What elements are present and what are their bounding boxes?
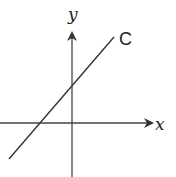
y-axis-label: y — [67, 4, 78, 24]
coordinate-diagram: x y C — [0, 0, 176, 177]
line-c — [9, 37, 114, 159]
curve-label-c: C — [119, 29, 132, 49]
x-axis-label: x — [155, 114, 165, 134]
